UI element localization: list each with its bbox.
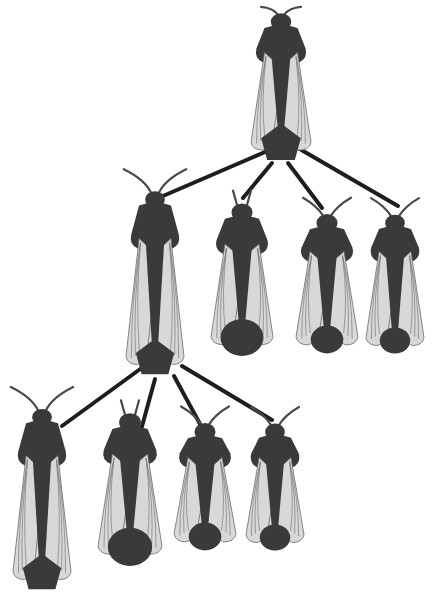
antenna-icon bbox=[121, 400, 139, 414]
antenna-icon bbox=[303, 198, 351, 216]
insect-gen2-d bbox=[366, 198, 424, 353]
insect-nodes bbox=[11, 7, 424, 589]
abdomen bbox=[108, 528, 152, 566]
insect-gen3-a bbox=[11, 387, 73, 589]
insect-gen3-c bbox=[174, 407, 236, 551]
abdomen bbox=[260, 524, 290, 550]
connector-line-queen-to-gen2-b bbox=[243, 163, 272, 198]
antenna-icon bbox=[181, 407, 229, 425]
connector-line-queen-to-gen2-c bbox=[288, 163, 322, 208]
abdomen bbox=[311, 326, 344, 354]
antenna-icon bbox=[11, 387, 73, 410]
abdomen bbox=[189, 523, 222, 551]
insect-gen2-a bbox=[124, 169, 186, 374]
abdomen bbox=[221, 319, 264, 356]
insect-gen2-b bbox=[211, 191, 273, 356]
insect-gen2-c bbox=[296, 198, 358, 354]
antenna-icon bbox=[371, 198, 419, 216]
abdomen bbox=[380, 327, 410, 353]
connector-line-gen2-a-to-gen3-b bbox=[141, 379, 155, 430]
insect-lineage-diagram bbox=[0, 0, 440, 602]
insect-gen3-d bbox=[246, 407, 304, 551]
insect-queen bbox=[251, 7, 311, 160]
insect-gen3-b bbox=[98, 400, 162, 566]
